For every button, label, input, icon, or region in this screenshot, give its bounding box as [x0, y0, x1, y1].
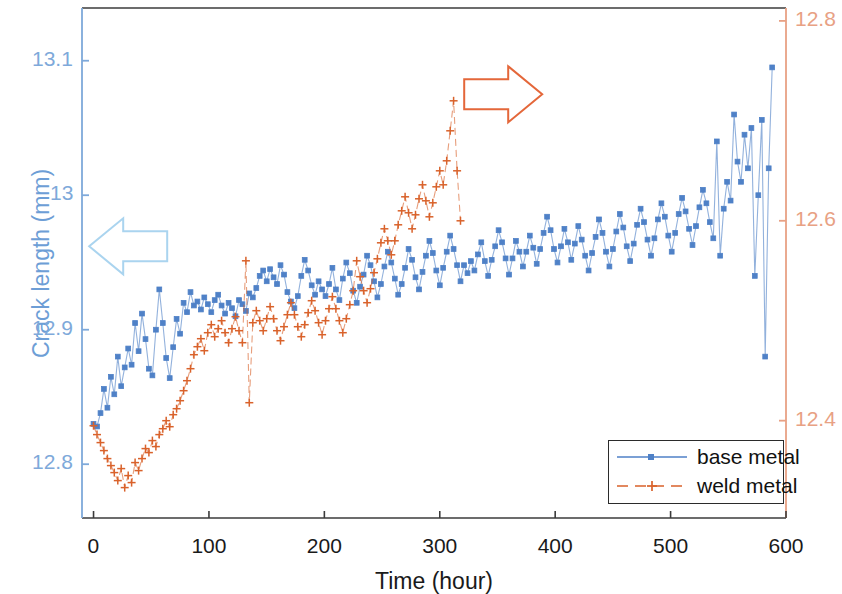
- legend-label-weld-metal: weld metal: [697, 474, 797, 498]
- annotation-arrows: [89, 66, 542, 274]
- x-tick-label-500: 500: [653, 534, 688, 558]
- x-tick-label-0: 0: [88, 534, 100, 558]
- x-tick-label-200: 200: [307, 534, 342, 558]
- legend-label-base-metal: base metal: [697, 445, 800, 469]
- x-tick-label-600: 600: [769, 534, 804, 558]
- y-left-tick-label-13: 13: [50, 181, 73, 205]
- legend-swatch-weld-metal: [613, 475, 691, 497]
- left-arrow: [89, 218, 167, 274]
- x-tick-label-100: 100: [191, 534, 226, 558]
- legend-item-base-metal[interactable]: base metal: [613, 442, 779, 471]
- legend-item-weld-metal[interactable]: weld metal: [613, 471, 779, 500]
- right-arrow: [464, 66, 542, 122]
- chart-canvas: [0, 0, 842, 594]
- legend-swatch-base-metal: [613, 446, 691, 468]
- y-right-tick-label-12.4: 12.4: [795, 407, 836, 431]
- chart-figure: Crack length (mm) Time (hour) 0100200300…: [0, 0, 842, 594]
- chart-legend[interactable]: base metal weld metal: [608, 440, 784, 504]
- y-left-tick-label-12.9: 12.9: [32, 316, 73, 340]
- series-layer: [90, 65, 775, 492]
- series-weld-metal: [90, 97, 465, 492]
- y-left-tick-label-13.1: 13.1: [32, 47, 73, 71]
- x-tick-label-300: 300: [422, 534, 457, 558]
- y-right-tick-label-12.8: 12.8: [795, 7, 836, 31]
- y-left-tick-label-12.8: 12.8: [32, 450, 73, 474]
- x-axis-title: Time (hour): [375, 568, 493, 594]
- series-base-metal: [91, 65, 775, 429]
- y-right-tick-label-12.6: 12.6: [795, 207, 836, 231]
- x-tick-label-400: 400: [538, 534, 573, 558]
